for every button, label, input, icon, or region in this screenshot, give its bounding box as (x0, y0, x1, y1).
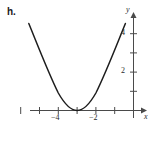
x-tick-label-minus4: −4 (51, 113, 60, 122)
y-axis-arrow (131, 12, 137, 18)
x-tick-label-minus2: −2 (89, 113, 98, 122)
plot-canvas (0, 0, 160, 153)
y-tick-label-2: 2 (121, 66, 125, 75)
x-axis-label: x (144, 112, 148, 121)
y-axis-label: y (126, 5, 130, 14)
parabola-figure: h. y x −4 −2 2 4 (0, 0, 160, 153)
y-tick-label-4: 4 (121, 28, 125, 37)
parabola-curve (29, 24, 126, 111)
